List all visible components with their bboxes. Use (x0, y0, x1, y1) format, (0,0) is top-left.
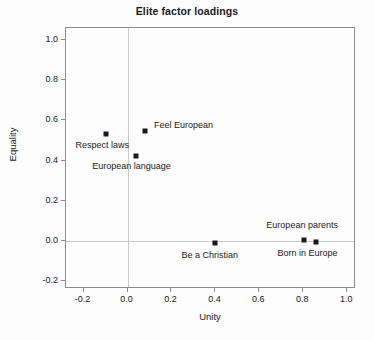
data-point-label: Feel European (154, 121, 213, 130)
y-tick (61, 119, 65, 120)
x-tick (214, 288, 215, 292)
y-tick (61, 240, 65, 241)
y-tick-label: 1.0 (45, 34, 58, 44)
data-point-label: European parents (266, 221, 338, 230)
y-tick (61, 200, 65, 201)
data-point-marker (134, 154, 139, 159)
chart-title: Elite factor loadings (0, 5, 374, 17)
data-point-label: Be a Christian (181, 251, 238, 260)
zero-gridline-vertical (128, 28, 129, 287)
data-point-marker (302, 237, 307, 242)
data-point-marker (213, 240, 218, 245)
x-tick (302, 288, 303, 292)
data-point-marker (314, 239, 319, 244)
x-tick-label: 0.0 (120, 294, 133, 304)
chart-figure: Elite factor loadings Respect lawsFeel E… (0, 0, 374, 340)
zero-gridline-horizontal (66, 241, 354, 242)
x-tick-label: 0.2 (164, 294, 177, 304)
x-tick-label: -0.2 (75, 294, 91, 304)
y-tick-label: 0.8 (45, 74, 58, 84)
data-point-marker (103, 132, 108, 137)
y-tick (61, 79, 65, 80)
y-tick-label: 0.4 (45, 155, 58, 165)
y-tick (61, 280, 65, 281)
x-tick (170, 288, 171, 292)
y-tick-label: 0.0 (45, 235, 58, 245)
x-axis-label: Unity (65, 311, 355, 322)
plot-area: Respect lawsFeel EuropeanEuropean langua… (65, 27, 355, 288)
x-tick (346, 288, 347, 292)
y-tick (61, 39, 65, 40)
data-point-label: European language (92, 162, 171, 171)
data-point-label: Born in Europe (277, 249, 337, 258)
y-tick-label: 0.2 (45, 195, 58, 205)
x-tick (258, 288, 259, 292)
y-tick-label: -0.2 (42, 275, 58, 285)
x-tick (127, 288, 128, 292)
x-tick-label: 0.8 (296, 294, 309, 304)
x-tick-label: 0.6 (252, 294, 265, 304)
y-tick-label: 0.6 (45, 114, 58, 124)
y-axis-label: Equality (7, 105, 18, 185)
y-tick (61, 160, 65, 161)
data-point-marker (143, 129, 148, 134)
x-tick (83, 288, 84, 292)
x-tick-label: 0.4 (208, 294, 221, 304)
x-tick-label: 1.0 (340, 294, 353, 304)
data-point-label: Respect laws (76, 141, 130, 150)
